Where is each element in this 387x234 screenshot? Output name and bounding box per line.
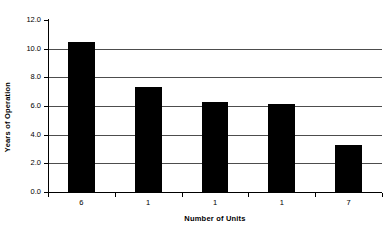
y-axis-tick	[44, 20, 48, 21]
bar	[135, 87, 162, 192]
y-axis-title: Years of Operation	[0, 0, 14, 234]
y-axis-tick	[44, 77, 48, 78]
y-axis-tick-label: 0.0	[0, 188, 41, 196]
y-axis-tick-label: 4.0	[0, 131, 41, 139]
x-axis-tick	[248, 193, 249, 197]
x-axis-title: Number of Units	[48, 214, 382, 223]
y-axis-tick-label: 12.0	[0, 16, 41, 24]
x-axis-line	[48, 192, 382, 193]
x-axis-tick-label: 1	[195, 198, 235, 208]
x-axis-tick-label: 7	[329, 198, 369, 208]
y-axis-tick-label: 10.0	[0, 45, 41, 53]
x-axis-tick	[182, 193, 183, 197]
x-axis-tick-label: 6	[61, 198, 101, 208]
bar	[335, 145, 362, 192]
x-axis-tick	[382, 193, 383, 197]
bar	[268, 104, 295, 192]
x-axis-tick	[315, 193, 316, 197]
gridline	[48, 77, 382, 78]
bar	[68, 42, 95, 193]
y-axis-tick	[44, 106, 48, 107]
y-axis-tick-label: 8.0	[0, 73, 41, 81]
y-axis-tick	[44, 163, 48, 164]
plot-area	[48, 20, 382, 192]
y-axis-tick-label: 6.0	[0, 102, 41, 110]
y-axis-tick	[44, 49, 48, 50]
bar-chart: Years of Operation 0.02.04.06.08.010.012…	[0, 0, 387, 234]
x-axis-tick	[115, 193, 116, 197]
gridline	[48, 49, 382, 50]
y-axis-tick	[44, 135, 48, 136]
x-axis-tick-label: 1	[128, 198, 168, 208]
y-axis-line	[48, 19, 49, 193]
y-axis-tick-label: 2.0	[0, 159, 41, 167]
bar	[202, 102, 229, 192]
x-axis-tick	[48, 193, 49, 197]
x-axis-tick-label: 1	[262, 198, 302, 208]
